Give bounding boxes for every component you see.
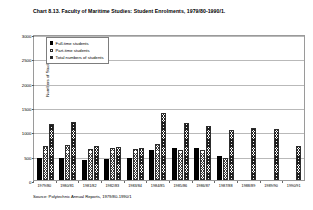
bar-pt[interactable] (43, 146, 48, 180)
legend-swatch-total-icon (50, 56, 53, 59)
bar-pt[interactable] (200, 150, 205, 180)
y-tick-label: 2500 (22, 58, 32, 63)
bar-ft[interactable] (172, 148, 177, 180)
bar-tot[interactable] (49, 124, 54, 180)
bar-tot[interactable] (184, 123, 189, 180)
bar-group (124, 36, 147, 180)
bar-pt[interactable] (223, 158, 228, 180)
bar-ft[interactable] (104, 159, 109, 180)
bar-ft[interactable] (149, 150, 154, 180)
bar-tot[interactable] (296, 146, 301, 180)
legend-item[interactable]: Total numbers of students (50, 55, 104, 60)
bar-pt[interactable] (155, 144, 160, 180)
bar-group (192, 36, 215, 180)
bar-pt[interactable] (133, 149, 138, 180)
y-tick-label: 1500 (22, 107, 32, 112)
bar-tot[interactable] (161, 113, 166, 180)
bar-ft[interactable] (127, 158, 132, 180)
y-tick-label: 3000 (22, 34, 32, 39)
bar-ft[interactable] (37, 158, 42, 180)
bar-tot[interactable] (251, 128, 256, 180)
legend-label: Total numbers of students (56, 55, 104, 60)
chart-title: Chart 8.13. Faculty of Maritime Studies:… (33, 8, 225, 14)
legend-label: Full-time students (56, 41, 89, 46)
bar-ft[interactable] (59, 158, 64, 180)
y-tick-label: 2000 (22, 82, 32, 87)
bar-ft[interactable] (82, 160, 87, 180)
chart-legend: Full-time students Part-time students To… (46, 37, 109, 64)
x-tick-label: 1988/89 (237, 181, 260, 193)
x-tick-label: 1979/80 (33, 181, 56, 193)
bar-pt[interactable] (178, 150, 183, 180)
chart-page: Chart 8.13. Faculty of Maritime Studies:… (0, 0, 313, 210)
legend-swatch-part-time-icon (50, 49, 53, 52)
bar-pt[interactable] (65, 145, 70, 180)
bar-group (147, 36, 170, 180)
bar-tot[interactable] (139, 148, 144, 180)
bar-group (282, 36, 305, 180)
x-tick-label: 1984/85 (146, 181, 169, 193)
bar-pt[interactable] (88, 149, 93, 180)
x-tick-label: 1987/88 (214, 181, 237, 193)
bar-tot[interactable] (71, 122, 76, 180)
bar-group (259, 36, 282, 180)
x-tick-label: 1985/86 (169, 181, 192, 193)
legend-label: Part-time students (56, 48, 90, 53)
y-tick-label: 1000 (22, 131, 32, 136)
bar-group (237, 36, 260, 180)
bar-pt[interactable] (110, 148, 115, 180)
legend-item[interactable]: Full-time students (50, 41, 104, 46)
x-tick-label: 1981/82 (78, 181, 101, 193)
y-tick-label: 500 (24, 155, 31, 160)
bar-group (214, 36, 237, 180)
x-tick-label: 1990/91 (282, 181, 305, 193)
legend-swatch-full-time-icon (50, 41, 53, 44)
bar-ft[interactable] (217, 156, 222, 180)
chart-source: Source: Polytechnic Annual Reports, 1979… (33, 194, 131, 199)
bar-tot[interactable] (274, 129, 279, 180)
x-tick-label: 1982/83 (101, 181, 124, 193)
x-tick-label: 1989/90 (260, 181, 283, 193)
legend-item[interactable]: Part-time students (50, 48, 104, 53)
bar-tot[interactable] (229, 130, 234, 180)
bar-tot[interactable] (116, 147, 121, 180)
x-tick-label: 1986/87 (192, 181, 215, 193)
bar-tot[interactable] (94, 146, 99, 180)
bar-tot[interactable] (206, 126, 211, 180)
bar-group (169, 36, 192, 180)
bar-ft[interactable] (194, 148, 199, 180)
x-tick-label: 1980/81 (56, 181, 79, 193)
x-tick-label: 1983/84 (124, 181, 147, 193)
x-axis-ticks: 1979/801980/811981/821982/831983/841984/… (33, 181, 305, 193)
